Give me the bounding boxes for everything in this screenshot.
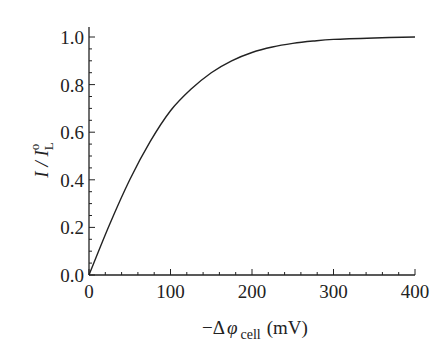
tick-labels: 01002003004000.00.20.40.60.81.0 [60, 27, 429, 302]
y-tick-label: 0.8 [60, 75, 84, 96]
y-tick-label: 0.6 [60, 122, 84, 143]
x-tick-label: 400 [401, 281, 430, 302]
y-tick-label: 0.4 [60, 170, 84, 191]
chart: 01002003004000.00.20.40.60.81.0 −Δφcell(… [0, 0, 446, 359]
x-tick-label: 300 [319, 281, 348, 302]
x-axis-title: −Δφcell(mV) [202, 317, 308, 342]
x-tick-label: 0 [84, 281, 94, 302]
y-tick-label: 0.0 [60, 265, 84, 286]
x-tick-label: 200 [238, 281, 267, 302]
ticks [89, 37, 415, 275]
y-tick-label: 1.0 [60, 27, 84, 48]
data-line [89, 37, 415, 275]
y-tick-label: 0.2 [60, 217, 84, 238]
axes [89, 27, 415, 275]
y-axis-title: I / ILo [27, 142, 56, 178]
x-tick-label: 100 [156, 281, 185, 302]
